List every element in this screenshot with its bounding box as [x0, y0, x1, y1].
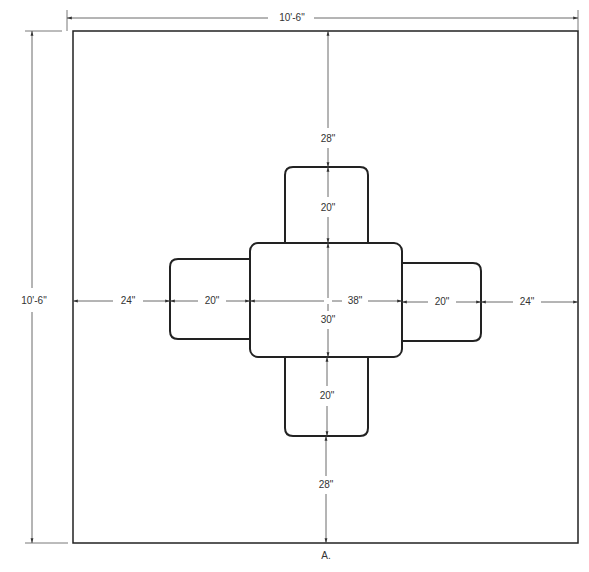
bottom-chair-depth-label: 20"	[320, 390, 335, 401]
table-depth-label: 30"	[321, 314, 336, 325]
figure-caption: A.	[321, 550, 330, 561]
room-width-dimension: 10'-6"	[67, 10, 578, 31]
right-chair-depth-label: 20"	[435, 296, 450, 307]
room-width-label: 10'-6"	[279, 12, 305, 23]
left-chair-depth-label: 20"	[205, 295, 220, 306]
left-clearance-label: 24"	[121, 295, 136, 306]
right-clearance-label: 24"	[520, 296, 535, 307]
table-width-label: 38"	[348, 295, 363, 306]
room-height-dimension: 10'-6"	[21, 31, 68, 543]
floor-plan-diagram: 10'-6" 10'-6" 28" 20" 30" 20" 28"	[0, 0, 589, 572]
top-chair-depth-label: 20"	[321, 202, 336, 213]
bottom-clearance-label: 28"	[319, 479, 334, 490]
top-clearance-label: 28"	[321, 133, 336, 144]
table	[250, 243, 402, 357]
room-height-label: 10'-6"	[21, 295, 47, 306]
